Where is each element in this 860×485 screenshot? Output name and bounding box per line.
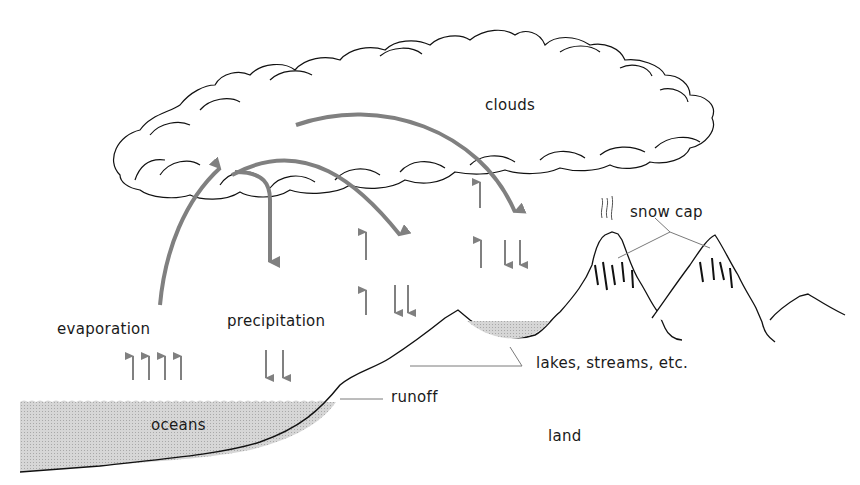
small-arrows [133, 182, 520, 380]
smoke-icon [601, 196, 612, 220]
label-precipitation: precipitation [227, 312, 325, 330]
label-snow-cap: snow cap [630, 203, 703, 221]
ocean [20, 401, 336, 473]
water-cycle-diagram [0, 0, 860, 485]
cloud [114, 30, 714, 199]
lake [467, 321, 550, 338]
label-lakes: lakes, streams, etc. [536, 354, 688, 372]
label-evaporation: evaporation [57, 320, 150, 338]
label-land: land [548, 427, 582, 445]
label-clouds: clouds [485, 96, 535, 114]
label-oceans: oceans [151, 416, 206, 434]
mountains [560, 232, 845, 342]
label-runoff: runoff [391, 388, 438, 406]
